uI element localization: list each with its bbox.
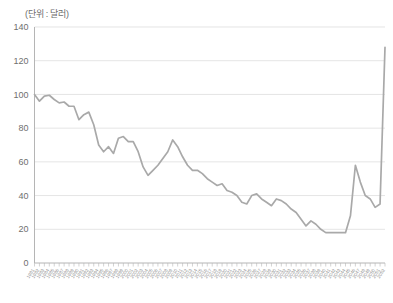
y-axis-tick-label: 80 (18, 123, 28, 133)
x-axis-tick-marks (35, 263, 386, 267)
y-axis-tick-label: 120 (13, 56, 28, 66)
y-axis-tick-labels: 020406080100120140 (13, 22, 28, 268)
y-axis-tick-label: 140 (13, 22, 28, 32)
line-chart-plot: 020406080100120140 198119821983198419851… (0, 0, 393, 303)
y-axis-tick-label: 40 (18, 191, 28, 201)
gridlines-group (35, 27, 386, 229)
data-line-price (35, 47, 386, 232)
y-axis-tick-label: 100 (13, 90, 28, 100)
y-axis-tick-label: 60 (18, 157, 28, 167)
y-axis-tick-label: 0 (23, 258, 28, 268)
y-axis-tick-label: 20 (18, 224, 28, 234)
x-axis-tick-labels: 1981198219831984198519861987198819891990… (26, 268, 386, 280)
chart-container: (단위 : 달러) 020406080100120140 19811982198… (0, 0, 393, 303)
